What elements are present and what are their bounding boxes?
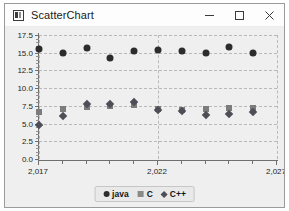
y-tick-label: 17.5: [17, 31, 33, 40]
x-tick: [276, 161, 277, 165]
x-tick-label: 2,022: [147, 167, 167, 176]
y-tick: [35, 159, 39, 160]
y-tick-label: 5.0: [22, 119, 33, 128]
legend-item-Cpp[interactable]: C++: [162, 189, 186, 199]
legend-label: java: [112, 189, 129, 199]
data-point-java: [202, 49, 209, 56]
data-point-Cpp: [59, 112, 67, 120]
window-titlebar[interactable]: ScatterChart: [5, 4, 284, 27]
legend-item-java[interactable]: java: [103, 189, 129, 199]
data-point-java: [107, 54, 114, 61]
x-gridline: [277, 35, 278, 159]
data-point-java: [155, 46, 162, 53]
x-tick: [38, 161, 39, 165]
y-tick-label: 15.0: [17, 48, 33, 57]
x-minor-tick: [86, 161, 87, 164]
app-icon: [13, 10, 24, 21]
data-point-java: [131, 48, 138, 55]
x-minor-tick: [62, 161, 63, 164]
diamond-marker-icon: [161, 190, 168, 197]
circle-marker-icon: [103, 191, 109, 197]
y-tick-label: 12.5: [17, 66, 33, 75]
y-axis: 0.02.55.07.510.012.515.017.5: [5, 33, 39, 161]
data-point-java: [178, 48, 185, 55]
legend-item-C[interactable]: C: [138, 189, 153, 199]
y-tick-label: 2.5: [22, 137, 33, 146]
x-tick-label: 2,027: [266, 167, 284, 176]
legend-label: C++: [170, 189, 186, 199]
x-minor-tick: [228, 161, 229, 164]
scatter-chart: 0.02.55.07.510.012.515.017.5 2,0172,0222…: [5, 27, 284, 207]
data-point-java: [59, 49, 66, 56]
data-point-java: [226, 44, 233, 51]
x-minor-tick: [252, 161, 253, 164]
close-button[interactable]: [254, 4, 284, 26]
data-point-java: [36, 46, 43, 53]
x-gridline: [158, 35, 159, 159]
x-minor-tick: [109, 161, 110, 164]
y-tick-label: 10.0: [17, 84, 33, 93]
x-tick-label: 2,017: [28, 167, 48, 176]
chart-legend[interactable]: javaCC++: [94, 186, 195, 202]
data-point-java: [83, 44, 90, 51]
data-point-java: [250, 49, 257, 56]
x-axis: 2,0172,0222,027: [38, 161, 278, 181]
data-point-C: [36, 109, 42, 115]
minimize-button[interactable]: [194, 4, 224, 26]
y-tick-label: 7.5: [22, 101, 33, 110]
square-marker-icon: [138, 191, 144, 197]
y-tick-label: 0.0: [22, 155, 33, 164]
x-tick: [157, 161, 158, 165]
legend-label: C: [147, 189, 153, 199]
x-minor-tick: [133, 161, 134, 164]
x-gridline: [39, 35, 40, 159]
plot-area: [39, 35, 277, 159]
x-minor-tick: [205, 161, 206, 164]
window-controls: [194, 4, 284, 26]
scatterchart-window: ScatterChart 0.02.55.07.510.012.515.017.…: [4, 3, 285, 208]
window-title: ScatterChart: [31, 9, 94, 21]
maximize-button[interactable]: [224, 4, 254, 26]
x-minor-tick: [181, 161, 182, 164]
